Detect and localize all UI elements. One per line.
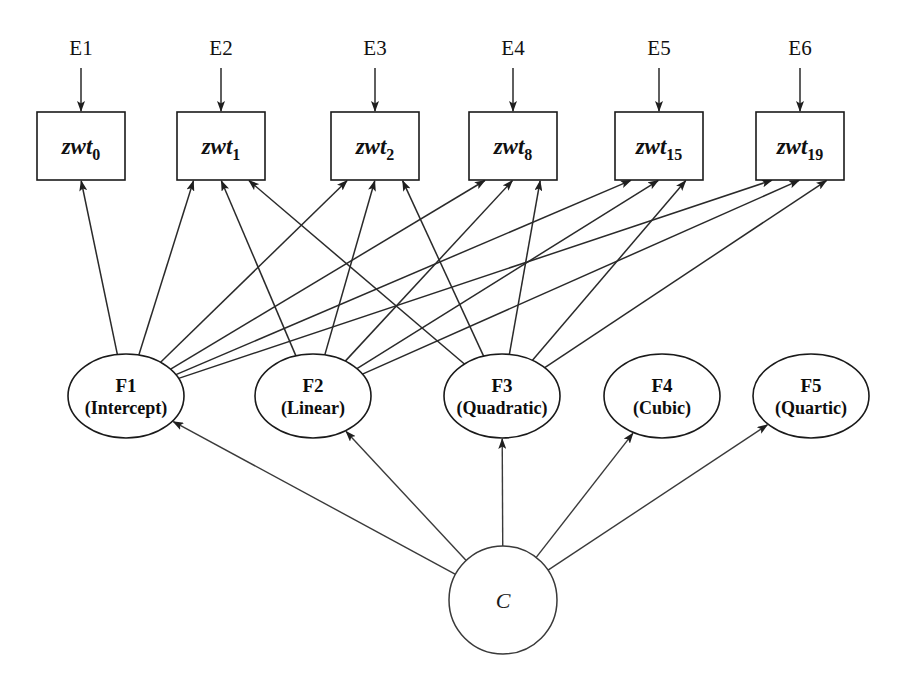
edge-f1-to-zwt0 bbox=[81, 181, 117, 354]
factor-ellipse-f3 bbox=[444, 354, 560, 438]
factor-sublabel-f3: (Quadratic) bbox=[457, 398, 548, 419]
factor-loading-edges bbox=[81, 180, 826, 378]
error-labels: E1E2E3E4E5E6 bbox=[69, 36, 811, 60]
factor-label-f5: F5 bbox=[800, 375, 821, 396]
factor-ellipse-f4 bbox=[604, 354, 720, 438]
edge-f2-to-zwt15 bbox=[357, 181, 658, 369]
edge-c-to-f1 bbox=[173, 422, 455, 575]
error-label-e1: E1 bbox=[69, 36, 92, 60]
common-cause-label: C bbox=[496, 588, 511, 613]
error-label-e6: E6 bbox=[788, 36, 811, 60]
edge-f1-to-zwt15 bbox=[176, 180, 631, 374]
factor-ellipse-f5 bbox=[753, 354, 869, 438]
factor-nodes: F1(Intercept)F2(Linear)F3(Quadratic)F4(C… bbox=[68, 354, 869, 438]
common-cause-edges bbox=[173, 422, 767, 575]
edge-f3-to-zwt2 bbox=[403, 181, 484, 356]
edge-f2-to-zwt2 bbox=[325, 181, 375, 355]
error-label-e3: E3 bbox=[363, 36, 386, 60]
factor-label-f1: F1 bbox=[115, 375, 136, 396]
factor-sublabel-f5: (Quartic) bbox=[775, 398, 847, 419]
error-edges bbox=[81, 68, 800, 111]
edge-f3-to-zwt1 bbox=[249, 181, 464, 364]
edge-f1-to-zwt19 bbox=[179, 180, 772, 378]
factor-ellipse-f1 bbox=[68, 354, 184, 438]
edge-c-to-f2 bbox=[346, 432, 466, 561]
factor-label-f2: F2 bbox=[302, 375, 323, 396]
error-label-e2: E2 bbox=[209, 36, 232, 60]
factor-sublabel-f2: (Linear) bbox=[281, 398, 345, 419]
edge-f2-to-zwt19 bbox=[362, 180, 799, 374]
factor-label-f4: F4 bbox=[651, 375, 673, 396]
edge-c-to-f3 bbox=[502, 439, 503, 546]
edge-f3-to-zwt8 bbox=[509, 181, 540, 354]
sem-path-diagram: zwt0zwt1zwt2zwt8zwt15zwt19 F1(Intercept)… bbox=[0, 0, 912, 685]
edge-f3-to-zwt15 bbox=[532, 181, 685, 361]
indicator-nodes: zwt0zwt1zwt2zwt8zwt15zwt19 bbox=[37, 112, 844, 180]
factor-label-f3: F3 bbox=[491, 375, 512, 396]
edge-c-to-f4 bbox=[536, 433, 633, 557]
diagram-canvas: zwt0zwt1zwt2zwt8zwt15zwt19 F1(Intercept)… bbox=[0, 0, 912, 685]
edge-f1-to-zwt1 bbox=[139, 181, 194, 355]
edge-f1-to-zwt2 bbox=[161, 181, 347, 363]
edge-f2-to-zwt1 bbox=[221, 181, 296, 356]
error-label-e4: E4 bbox=[501, 36, 525, 60]
edge-c-to-f5 bbox=[548, 425, 767, 570]
factor-ellipse-f2 bbox=[255, 354, 371, 438]
factor-sublabel-f1: (Intercept) bbox=[85, 398, 168, 419]
factor-sublabel-f4: (Cubic) bbox=[633, 398, 691, 419]
error-label-e5: E5 bbox=[647, 36, 670, 60]
common-cause-node: C bbox=[449, 546, 557, 654]
